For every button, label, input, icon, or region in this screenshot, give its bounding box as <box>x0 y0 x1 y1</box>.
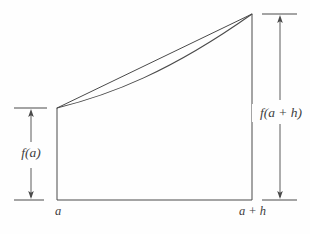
left-height-label: f(a) <box>0 146 62 160</box>
figure-container: f(a) f(a + h) a a + h <box>0 0 310 234</box>
right-height-label: f(a + h) <box>252 104 310 122</box>
right-height-label-text: f(a + h) <box>260 105 302 120</box>
x-axis-label-a-text: a <box>55 204 61 218</box>
x-axis-label-a: a <box>46 205 70 218</box>
left-height-label-text: f(a) <box>21 145 41 160</box>
x-axis-label-a-plus-h: a + h <box>200 205 305 218</box>
secant-chord-line <box>57 14 252 108</box>
x-axis-label-a-plus-h-text: a + h <box>239 204 266 218</box>
